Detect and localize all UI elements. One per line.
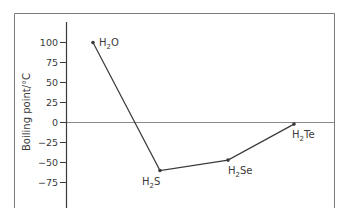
y-axis-title: Boiling point/°C <box>21 73 32 151</box>
point-label: H2S <box>142 176 160 190</box>
y-tick-label: −25 <box>38 137 58 148</box>
y-tick-label: 100 <box>40 37 58 48</box>
y-tick-label: −75 <box>38 177 58 188</box>
point-label: H2Se <box>228 165 253 179</box>
y-axis-ticks: 1007550250−25−50−75 <box>38 37 66 188</box>
data-point <box>226 158 230 162</box>
point-label: H2Te <box>292 129 315 143</box>
y-tick-label: 25 <box>46 97 58 108</box>
data-point <box>292 122 296 126</box>
y-tick-label: 75 <box>46 57 58 68</box>
data-points <box>91 41 296 173</box>
y-tick-label: −50 <box>38 157 58 168</box>
y-tick-label: 0 <box>52 117 58 128</box>
data-line <box>93 43 294 171</box>
data-point <box>158 169 162 173</box>
y-tick-label: 50 <box>46 77 58 88</box>
point-label: H2O <box>99 37 119 51</box>
point-labels: H2OH2SH2SeH2Te <box>99 37 315 190</box>
data-point <box>91 41 95 45</box>
boiling-point-chart: 1007550250−25−50−75 Boiling point/°C H2O… <box>0 0 345 208</box>
